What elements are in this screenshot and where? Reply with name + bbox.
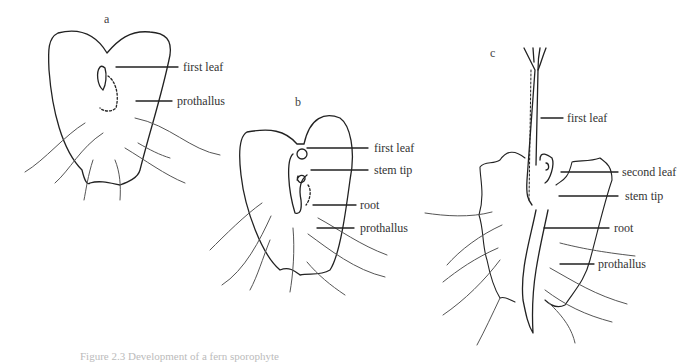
label-a-first-leaf: first leaf bbox=[183, 61, 223, 73]
label-b-first-leaf: first leaf bbox=[374, 142, 414, 154]
label-c-prothallus: prothallus bbox=[598, 258, 646, 270]
panel-a-letter: a bbox=[104, 12, 109, 27]
label-c-first-leaf: first leaf bbox=[567, 112, 607, 124]
label-b-prothallus: prothallus bbox=[360, 222, 408, 234]
panel-c-drawing bbox=[425, 48, 635, 345]
label-b-stem-tip: stem tip bbox=[374, 164, 412, 176]
panel-c-letter: c bbox=[490, 46, 495, 61]
label-a-prothallus: prothallus bbox=[177, 95, 225, 107]
label-c-second-leaf: second leaf bbox=[622, 166, 676, 178]
panel-b-letter: b bbox=[295, 95, 301, 110]
label-b-root: root bbox=[360, 199, 379, 211]
figure-caption: Figure 2.3 Development of a fern sporoph… bbox=[80, 350, 279, 362]
panel-a-drawing bbox=[25, 31, 220, 200]
label-c-stem-tip: stem tip bbox=[625, 190, 663, 202]
label-c-root: root bbox=[614, 222, 633, 234]
